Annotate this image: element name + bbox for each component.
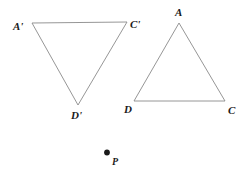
vertex-label-a-prime: A' <box>13 21 23 32</box>
vertex-label-d: D <box>124 104 132 115</box>
vertex-label-c-prime: C' <box>130 19 140 30</box>
vertex-label-c: C <box>228 105 235 116</box>
point-label-p: P <box>112 157 118 167</box>
triangle-image-shape <box>32 22 127 105</box>
geometry-canvas <box>0 0 247 173</box>
vertex-label-a: A <box>175 7 182 18</box>
vertex-label-d-prime: D' <box>71 110 82 121</box>
geometry-figure: A' C' D' A D C P <box>0 0 247 173</box>
triangle-preimage-shape <box>134 23 225 101</box>
center-of-rotation-point <box>104 150 110 156</box>
